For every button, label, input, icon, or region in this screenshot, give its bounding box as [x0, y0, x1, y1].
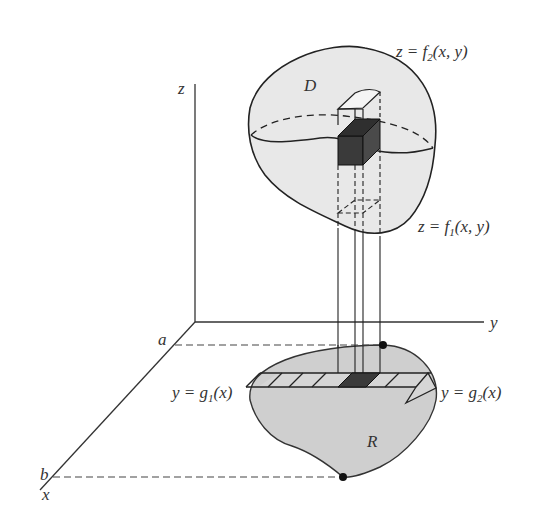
x-axis	[40, 322, 195, 490]
bound-b-label: b	[40, 465, 49, 484]
x-axis-label: x	[41, 485, 50, 504]
box-front	[338, 136, 363, 165]
top-surface-label: z = f2(x, y)	[395, 42, 468, 63]
bottom-surface-label: z = f1(x, y)	[417, 217, 490, 238]
triple-integral-diagram: z y x D	[0, 0, 538, 522]
bound-a-point	[379, 341, 387, 349]
z-axis-label: z	[177, 79, 185, 98]
bound-a-label: a	[158, 330, 167, 349]
y-axis-label: y	[488, 313, 498, 332]
diagram-canvas: z y x D	[0, 0, 538, 522]
region-label: R	[366, 432, 378, 451]
upper-curve-label: y = g2(x)	[439, 383, 502, 404]
bound-b-point	[339, 473, 347, 481]
region-R	[250, 345, 437, 477]
lower-curve-label: y = g1(x)	[170, 383, 233, 404]
solid-label: D	[303, 76, 317, 95]
region-outline	[250, 345, 437, 477]
